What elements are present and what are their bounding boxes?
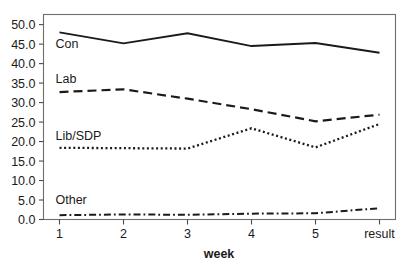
y-tick-label: 35.0	[11, 77, 35, 91]
y-tick-label: 15.0	[11, 155, 35, 169]
y-tick-label: 10.0	[11, 174, 35, 188]
y-tick-label: 0.0	[18, 213, 35, 227]
series-label-con: Con	[56, 37, 79, 51]
y-tick-label: 25.0	[11, 116, 35, 130]
series-label-lab: Lab	[56, 72, 77, 86]
series-label-other: Other	[56, 193, 87, 207]
y-tick-label: 50.0	[11, 18, 35, 32]
x-tick-label: 2	[120, 227, 127, 241]
y-tick-label: 30.0	[11, 96, 35, 110]
x-tick-label: 3	[184, 227, 191, 241]
chart-canvas: 0.05.010.015.020.025.030.035.040.045.050…	[0, 0, 416, 270]
x-axis-title: week	[203, 247, 235, 261]
y-tick-label: 5.0	[18, 194, 35, 208]
x-tick-label: result	[364, 227, 395, 241]
y-tick-label: 40.0	[11, 57, 35, 71]
x-tick-label: 4	[248, 227, 255, 241]
x-tick-label: 1	[56, 227, 63, 241]
series-label-lib-sdp: Lib/SDP	[56, 129, 102, 143]
line-chart: 0.05.010.015.020.025.030.035.040.045.050…	[0, 0, 416, 270]
y-tick-label: 20.0	[11, 135, 35, 149]
x-tick-label: 5	[312, 227, 319, 241]
y-tick-label: 45.0	[11, 38, 35, 52]
